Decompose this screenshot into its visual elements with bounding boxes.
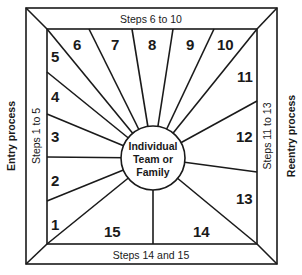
reentry-process-label: Reentry process (285, 95, 297, 177)
segment-2: 2 (51, 172, 59, 189)
segment-5: 5 (51, 48, 59, 65)
segment-10: 10 (217, 36, 234, 53)
segment-12: 12 (236, 128, 253, 145)
band-label-right: Steps 11 to 13 (261, 102, 273, 169)
corner-connector (26, 8, 47, 29)
segment-1: 1 (51, 216, 59, 233)
segment-6: 6 (73, 36, 81, 53)
center-label-line3: Family (136, 166, 169, 178)
segment-11: 11 (237, 68, 253, 85)
corner-connector (257, 8, 277, 29)
center-label-line1: Individual (128, 140, 177, 152)
segment-13: 13 (236, 190, 253, 207)
corner-connector (26, 244, 47, 264)
steps-diagram: Individual Team or Family 1 2 3 4 5 6 7 … (0, 0, 302, 275)
band-label-left: Steps 1 to 5 (30, 108, 42, 164)
segment-8: 8 (148, 36, 156, 53)
band-label-bottom: Steps 14 and 15 (113, 249, 190, 261)
segment-7: 7 (111, 36, 119, 53)
entry-process-label: Entry process (5, 101, 17, 171)
band-label-top: Steps 6 to 10 (120, 13, 182, 25)
corner-connector (257, 244, 277, 264)
segment-15: 15 (104, 223, 121, 240)
segment-3: 3 (51, 128, 59, 145)
segment-9: 9 (186, 36, 194, 53)
segment-14: 14 (193, 223, 210, 240)
segment-4: 4 (51, 88, 60, 105)
center-label-line2: Team or (133, 153, 173, 165)
